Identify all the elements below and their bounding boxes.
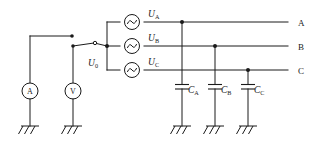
- junction-bus-c-cc: [246, 68, 250, 72]
- circuit-canvas: UA UB UC U0 A: [0, 0, 315, 149]
- ac-source-ub: [125, 39, 140, 54]
- node-u0: [105, 44, 109, 48]
- terminal-label-c: C: [298, 66, 304, 76]
- ammeter-branch-wire: [30, 36, 72, 83]
- capacitor-cb-branch: CB: [208, 44, 231, 126]
- switch-contact-lower[interactable]: [71, 44, 75, 48]
- ground-cc: [237, 126, 258, 134]
- circuit-diagram: UA UB UC U0 A: [0, 0, 315, 149]
- ground-cb: [204, 126, 225, 134]
- ac-source-uc: [125, 63, 140, 78]
- voltmeter: V: [65, 83, 81, 126]
- capacitor-label-ca: CA: [188, 85, 199, 96]
- capacitor-label-cc: CC: [254, 85, 264, 96]
- voltmeter-label: V: [70, 87, 76, 96]
- source-label-uc: UC: [148, 57, 159, 68]
- switch-contact-upper[interactable]: [70, 34, 74, 38]
- ammeter-label: A: [27, 87, 33, 96]
- terminal-label-a: A: [298, 18, 305, 28]
- capacitor-ca-branch: CA: [175, 20, 199, 126]
- ground-voltmeter: [62, 126, 83, 134]
- switch-label-u0: U0: [88, 58, 98, 69]
- ground-ca: [171, 126, 192, 134]
- source-label-ua: UA: [148, 9, 160, 20]
- terminal-label-b: B: [298, 42, 304, 52]
- junction-bus-a-ca: [180, 20, 184, 24]
- ac-source-ua: [125, 15, 140, 30]
- ammeter: A: [22, 83, 38, 126]
- junction-bus-b-cb: [213, 44, 217, 48]
- capacitor-label-cb: CB: [221, 85, 231, 96]
- source-label-ub: UB: [148, 33, 159, 44]
- capacitor-cc-branch: CC: [241, 68, 264, 126]
- ground-ammeter: [19, 126, 40, 134]
- changeover-switch[interactable]: [70, 34, 107, 48]
